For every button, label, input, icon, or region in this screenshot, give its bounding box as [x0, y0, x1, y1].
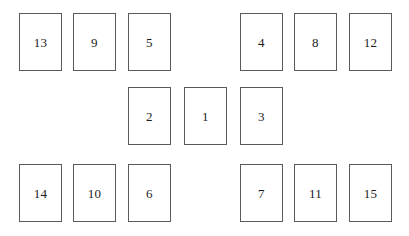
card-2[interactable]: 2 — [128, 87, 171, 145]
card-15[interactable]: 15 — [349, 164, 392, 222]
card-label: 13 — [34, 36, 48, 49]
card-label: 2 — [146, 110, 153, 123]
card-1[interactable]: 1 — [184, 87, 227, 145]
card-label: 6 — [146, 187, 153, 200]
card-6[interactable]: 6 — [128, 164, 171, 222]
card-4[interactable]: 4 — [240, 13, 283, 71]
card-7[interactable]: 7 — [240, 164, 283, 222]
card-label: 3 — [258, 110, 265, 123]
card-label: 8 — [312, 36, 319, 49]
card-label: 10 — [88, 187, 102, 200]
card-5[interactable]: 5 — [128, 13, 171, 71]
card-label: 12 — [364, 36, 378, 49]
card-11[interactable]: 11 — [294, 164, 337, 222]
card-14[interactable]: 14 — [19, 164, 62, 222]
card-3[interactable]: 3 — [240, 87, 283, 145]
card-9[interactable]: 9 — [73, 13, 116, 71]
card-label: 9 — [91, 36, 98, 49]
card-8[interactable]: 8 — [294, 13, 337, 71]
card-13[interactable]: 13 — [19, 13, 62, 71]
card-label: 7 — [258, 187, 265, 200]
card-label: 1 — [202, 110, 209, 123]
card-label: 5 — [146, 36, 153, 49]
card-10[interactable]: 10 — [73, 164, 116, 222]
card-label: 4 — [258, 36, 265, 49]
card-label: 14 — [34, 187, 48, 200]
card-label: 11 — [309, 187, 322, 200]
card-label: 15 — [364, 187, 378, 200]
card-layout-canvas: 139548122131410671115 — [0, 0, 409, 236]
card-12[interactable]: 12 — [349, 13, 392, 71]
